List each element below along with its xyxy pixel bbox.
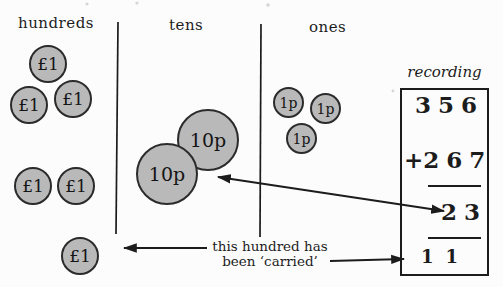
recording-label: recording bbox=[400, 63, 489, 81]
addend-top: 356 bbox=[415, 93, 484, 116]
coin-1-pound: £1 bbox=[10, 86, 48, 124]
carry-digits: 11 bbox=[421, 248, 470, 266]
plus-sign: + bbox=[404, 148, 423, 171]
column-header-hundreds: hundreds bbox=[18, 14, 94, 32]
partial-sum: 23 bbox=[441, 200, 487, 223]
coin-1-pound: £1 bbox=[54, 80, 92, 118]
recording-box: 356 + 267 23 11 bbox=[400, 88, 489, 276]
coin-1p: 1p bbox=[273, 87, 304, 118]
carried-annotation-line2: been ‘carried’ bbox=[203, 254, 337, 269]
column-divider-tens-ones bbox=[260, 24, 261, 237]
column-header-ones: ones bbox=[309, 18, 346, 36]
column-header-tens: tens bbox=[169, 16, 203, 34]
carry-rule-line bbox=[428, 237, 481, 239]
annotation-to-carry-digits-arrow bbox=[330, 259, 404, 261]
coin-10p: 10p bbox=[136, 143, 198, 205]
place-value-carrying-diagram: hundreds tens ones £1 £1 £1 £1 £1 £1 10p… bbox=[0, 0, 503, 287]
addend-bottom: 267 bbox=[423, 148, 492, 171]
scan-artifacts bbox=[85, 1, 394, 92]
sum-rule-line bbox=[428, 185, 481, 187]
coin-1-pound: £1 bbox=[29, 45, 67, 83]
coin-1p: 1p bbox=[310, 93, 341, 124]
coin-1p: 1p bbox=[286, 123, 317, 154]
column-divider-hundreds-tens bbox=[116, 22, 118, 234]
coin-1-pound: £1 bbox=[57, 167, 95, 205]
coin-1-pound-carried: £1 bbox=[61, 237, 99, 275]
coin-1-pound: £1 bbox=[14, 167, 52, 205]
addend-bottom-row: + 267 bbox=[404, 148, 487, 171]
carried-annotation: this hundred has been ‘carried’ bbox=[203, 239, 337, 269]
carried-annotation-line1: this hundred has bbox=[203, 239, 337, 254]
